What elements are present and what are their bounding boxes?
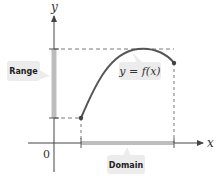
x-axis-label: x: [207, 136, 214, 150]
domain-bar: [81, 141, 174, 145]
curve-start-point: [79, 116, 83, 120]
function-label: y = f(x): [118, 65, 160, 78]
domain-label: Domain: [109, 161, 144, 170]
domain-range-diagram: y = f(x) Range Domain y x 0: [0, 0, 219, 181]
function-curve: [81, 49, 174, 118]
y-axis-label: y: [50, 0, 58, 14]
curve-end-point: [172, 61, 176, 65]
range-label: Range: [9, 67, 38, 76]
origin-label: 0: [43, 148, 50, 161]
function-label-pointer: [132, 52, 143, 63]
domain-callout-pointer: [123, 147, 131, 156]
range-bar: [52, 49, 57, 118]
